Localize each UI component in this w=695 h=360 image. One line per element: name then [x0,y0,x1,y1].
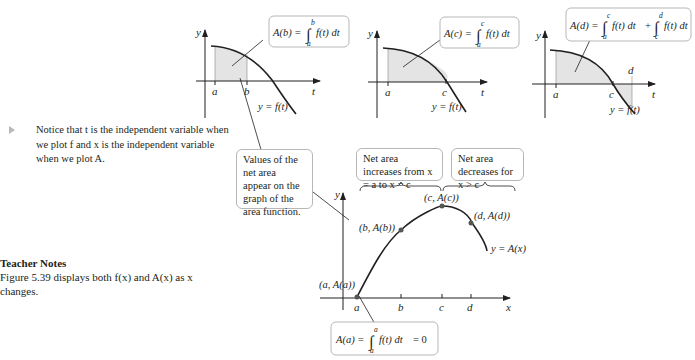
svg-text:A(b) =: A(b) = [272,27,301,39]
svg-text:c: c [439,301,444,313]
svg-text:y: y [367,27,373,39]
graph-A-of-d: y t a c d y = f(t) A(d) = ∫ c a f(t) dt … [532,8,691,118]
leader-line [313,192,349,220]
svg-text:a: a [385,86,391,98]
svg-text:f(t) dt: f(t) dt [612,20,637,32]
callout-net-area-increases: Net area increases from x = a to x = c [356,148,443,181]
svg-text:f(t) dt: f(t) dt [316,27,341,39]
callout-net-area-values: Values of the net area appear on the gra… [236,149,313,209]
svg-text:c: c [442,86,447,98]
svg-text:a: a [374,325,378,334]
svg-text:A(d) =: A(d) = [569,20,598,32]
svg-text:a: a [553,88,559,100]
svg-text:a: a [354,301,360,313]
svg-text:c: c [609,88,614,100]
svg-text:b: b [311,18,315,27]
point-c [440,204,445,209]
svg-text:(a, A(a)): (a, A(a)) [319,279,355,291]
figure-5-39: y t a b y = f(t) A(b) = ∫ b a f(t) dt y … [0,0,695,360]
svg-text:= 0: = 0 [413,334,427,345]
graph-A-of-c: y t a c y = f(t) A(c) = ∫ c a f(t) dt [367,17,519,118]
svg-text:t: t [481,86,485,98]
svg-text:y = f(t): y = f(t) [257,101,288,113]
svg-text:d: d [659,11,663,20]
callout-net-area-decreases: Net area decreases for x > c [451,148,524,181]
svg-text:+: + [645,20,651,31]
svg-text:d: d [628,64,634,76]
svg-text:b: b [398,301,404,313]
svg-text:(b, A(b)): (b, A(b)) [359,222,395,234]
svg-text:f(t) dt: f(t) dt [486,28,511,40]
svg-text:a: a [212,85,218,97]
svg-text:y = f(t): y = f(t) [609,104,640,116]
svg-text:(d, A(d)): (d, A(d)) [474,210,510,222]
svg-text:a: a [603,32,607,41]
shaded-region-positive [556,50,613,84]
svg-text:y = f(t): y = f(t) [431,101,462,113]
leader-line [240,78,262,153]
A-curve [357,206,487,297]
svg-text:y: y [334,188,340,200]
svg-text:t: t [312,85,316,97]
svg-text:y = A(x): y = A(x) [490,243,526,255]
svg-text:d: d [467,301,473,313]
svg-text:t: t [652,88,656,100]
point-d [469,221,474,226]
leader-line [359,296,375,324]
svg-text:f(t) dt: f(t) dt [379,334,404,346]
svg-text:y: y [195,26,201,38]
svg-text:x: x [505,301,511,313]
svg-text:a: a [307,39,311,48]
svg-text:A(c) =: A(c) = [443,28,472,40]
svg-text:A(a) =: A(a) = [335,334,364,346]
point-b [399,228,404,233]
svg-text:y: y [535,29,541,41]
svg-text:a: a [477,40,481,49]
point-a [355,295,360,300]
svg-text:(c, A(c)): (c, A(c)) [424,192,459,204]
svg-text:f(t) dt: f(t) dt [664,20,689,32]
shaded-region [215,47,247,81]
svg-text:a: a [370,346,374,355]
graph-A-of-b: y t a b y = f(t) A(b) = ∫ b a f(t) dt [195,16,349,118]
